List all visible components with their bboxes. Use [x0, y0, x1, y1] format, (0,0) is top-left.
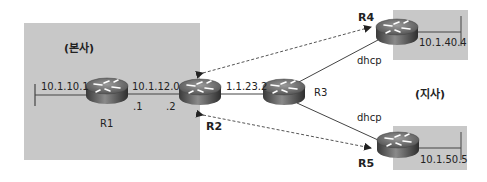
hq-label: (본사)	[64, 43, 94, 55]
r2-r3-address: 1.1.23.2	[226, 81, 267, 93]
router-r2-icon[interactable]	[178, 78, 222, 106]
r5-lan-address: 10.1.50.5	[420, 154, 468, 166]
router-r5-label: R5	[358, 158, 374, 170]
router-r3-icon[interactable]	[262, 78, 306, 106]
router-r2-label: R2	[206, 121, 222, 133]
r3-r5-link-label: dhcp	[357, 112, 382, 124]
r1-lan-address: 10.1.10.1	[41, 81, 89, 93]
r2-interface: .2	[166, 101, 176, 113]
branch-label: (지사)	[415, 89, 445, 101]
router-r1-label: R1	[100, 118, 113, 130]
r1-r2-network: 10.1.12.0	[132, 81, 180, 93]
router-r4-label: R4	[358, 12, 374, 24]
router-r1-icon[interactable]	[85, 77, 129, 105]
router-r5-icon[interactable]	[376, 131, 420, 159]
r1-interface: .1	[133, 101, 143, 113]
router-r3-label: R3	[314, 87, 327, 99]
router-r4-icon[interactable]	[375, 18, 419, 46]
r3-r4-link-label: dhcp	[357, 55, 382, 67]
r4-lan-address: 10.1.40.4	[419, 37, 467, 49]
